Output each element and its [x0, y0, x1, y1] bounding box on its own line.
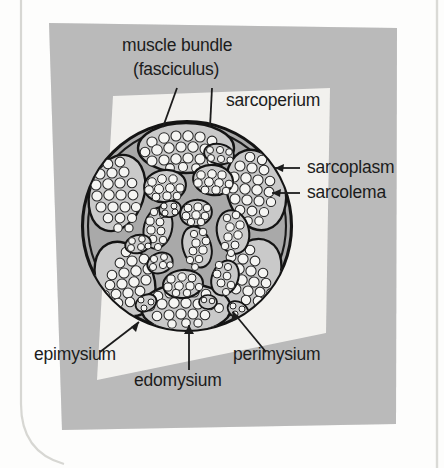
label-perimysium: perimysium — [233, 345, 320, 363]
label-sarcolema: sarcolema — [307, 183, 386, 201]
fascicle — [199, 295, 217, 309]
muscle-cross-section-diagram — [0, 0, 444, 468]
label-sarcoplasm: sarcoplasm — [307, 158, 394, 176]
label-fasciculus: (fasciculus) — [133, 60, 219, 78]
figure-canvas: muscle bundle (fasciculus) sarcoperium s… — [0, 0, 444, 468]
label-sarcoperium: sarcoperium — [226, 91, 320, 109]
label-edomysium: edomysium — [134, 371, 222, 389]
label-epimysium: epimysium — [34, 345, 116, 363]
label-muscle-bundle: muscle bundle — [122, 36, 232, 54]
